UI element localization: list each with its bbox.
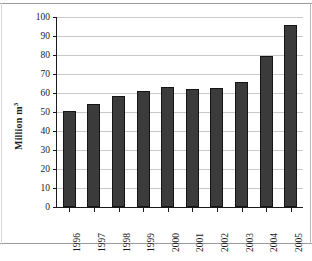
y-axis-tick-label: 40 <box>24 127 50 137</box>
y-axis-tick-label: 30 <box>24 146 50 156</box>
x-axis-tick-label: 2000 <box>172 212 182 252</box>
y-axis-title: Million m3 <box>12 103 24 150</box>
y-axis-title-superscript: 3 <box>12 103 20 107</box>
y-axis-tick-label: 20 <box>24 165 50 175</box>
chart-figure: Million m3 0102030405060708090100 199619… <box>0 0 312 261</box>
page-rule-top <box>0 3 312 4</box>
y-axis-tick-label: 100 <box>24 13 50 23</box>
x-axis-tick-label: 2001 <box>196 212 206 252</box>
x-axis-tick-label: 2003 <box>246 212 256 252</box>
y-axis-tick-labels: 0102030405060708090100 <box>57 17 303 207</box>
x-axis-tick-label: 1997 <box>98 212 108 252</box>
x-axis-tick-label: 1998 <box>123 212 133 252</box>
y-axis-tick <box>53 207 57 208</box>
y-axis-tick-label: 70 <box>24 70 50 80</box>
y-axis-tick-label: 10 <box>24 184 50 194</box>
y-axis-tick-label: 80 <box>24 51 50 61</box>
y-axis-tick-label: 50 <box>24 108 50 118</box>
x-axis-tick-label: 2005 <box>295 212 305 252</box>
x-axis-tick-label: 1996 <box>73 212 83 252</box>
x-axis-tick-label: 2004 <box>270 212 280 252</box>
page-edge-left <box>1 3 2 244</box>
x-axis-tick-label: 1999 <box>147 212 157 252</box>
y-axis-tick-label: 0 <box>24 203 50 213</box>
page-edge-right <box>310 3 311 244</box>
y-axis-title-text: Million m <box>13 106 24 150</box>
x-axis-tick-labels: 1996199719981999200020012002200320042005 <box>57 212 303 256</box>
x-axis-tick-label: 2002 <box>221 212 231 252</box>
y-axis-tick-label: 60 <box>24 89 50 99</box>
y-axis-tick-label: 90 <box>24 32 50 42</box>
